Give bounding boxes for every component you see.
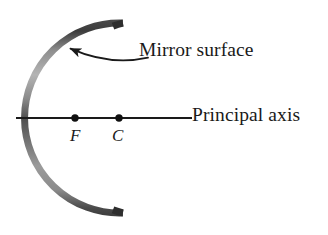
mirror-arc-end-top [113, 23, 123, 26]
mirror-arc-end-bottom [113, 210, 123, 213]
center-of-curvature-label: C [112, 127, 123, 144]
center-of-curvature-marker [115, 114, 122, 121]
principal-axis-label: Principal axis [192, 105, 300, 125]
mirror-diagram-figure: Mirror surface Principal axis F C [0, 0, 328, 235]
focal-point-marker [71, 114, 78, 121]
mirror-surface-pointer-arrow [71, 49, 149, 61]
mirror-surface-label: Mirror surface [139, 40, 254, 60]
focal-point-label: F [70, 127, 80, 144]
